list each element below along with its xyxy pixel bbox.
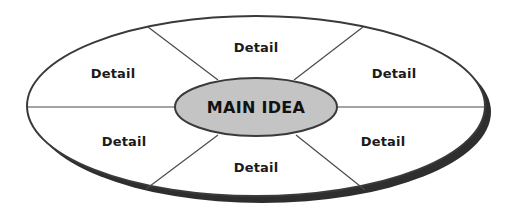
main-idea-diagram: MAIN IDEA Detail Detail Detail Detail De… bbox=[0, 0, 512, 220]
detail-bottom-label: Detail bbox=[234, 160, 279, 175]
detail-lower-right-label: Detail bbox=[361, 134, 406, 149]
detail-lower-left-label: Detail bbox=[102, 134, 147, 149]
detail-upper-left-label: Detail bbox=[91, 66, 136, 81]
main-idea-label: MAIN IDEA bbox=[207, 98, 305, 117]
detail-upper-right-label: Detail bbox=[372, 66, 417, 81]
detail-top-label: Detail bbox=[234, 40, 279, 55]
